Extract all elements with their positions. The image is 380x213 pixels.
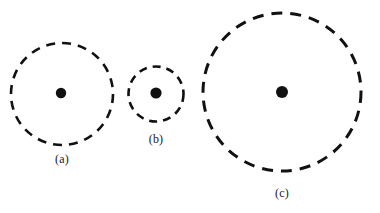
figure-background bbox=[0, 0, 380, 213]
center-dot-a bbox=[56, 88, 66, 98]
panel-label-a: (a) bbox=[55, 153, 69, 165]
center-dot-c bbox=[276, 86, 288, 98]
dashed-circles-diagram bbox=[0, 0, 380, 213]
center-dot-b bbox=[150, 87, 161, 98]
panel-label-c: (c) bbox=[275, 187, 289, 199]
figure-canvas: (a) (b) (c) bbox=[0, 0, 380, 213]
panel-label-b: (b) bbox=[149, 133, 164, 145]
